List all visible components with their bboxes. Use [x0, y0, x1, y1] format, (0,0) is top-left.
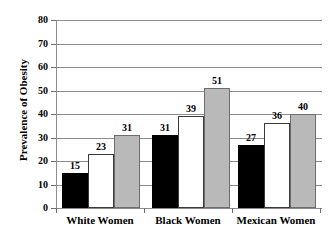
x-label-mexican-women: Mexican Women — [226, 214, 326, 226]
bar-mexican-women-series-1 — [238, 145, 264, 208]
y-tick-label-0: 0 — [0, 202, 56, 214]
x-axis-tick-0 — [56, 208, 57, 213]
x-label-black-women: Black Women — [138, 214, 238, 226]
bar-black-women-series-3 — [204, 88, 230, 208]
bar-group-1: 152331 — [62, 20, 140, 208]
bars-layer: 152331313951273640 — [56, 20, 322, 208]
bar-group-3: 273640 — [238, 20, 316, 208]
bar-white-women-series-3 — [114, 135, 140, 208]
x-axis-tick-2 — [232, 208, 233, 213]
x-label-white-women: White Women — [50, 214, 150, 226]
bar-chart: Prevalence of Obesity 80706050403020100 … — [0, 0, 331, 240]
x-axis-labels: White WomenBlack WomenMexican Women — [56, 214, 322, 236]
y-axis-title: Prevalence of Obesity — [17, 25, 29, 195]
bar-black-women-series-2 — [178, 116, 204, 208]
bar-white-women-series-2 — [88, 154, 114, 208]
bar-mexican-women-series-2 — [264, 123, 290, 208]
bar-value-label: 31 — [109, 122, 145, 133]
bar-group-2: 313951 — [152, 20, 230, 208]
bar-mexican-women-series-3 — [290, 114, 316, 208]
x-axis-line — [56, 208, 322, 209]
bar-black-women-series-1 — [152, 135, 178, 208]
bar-value-label: 40 — [285, 101, 321, 112]
x-axis-tick-1 — [144, 208, 145, 213]
bar-white-women-series-1 — [62, 173, 88, 208]
x-axis-tick-3 — [320, 208, 321, 213]
bar-value-label: 51 — [199, 75, 235, 86]
